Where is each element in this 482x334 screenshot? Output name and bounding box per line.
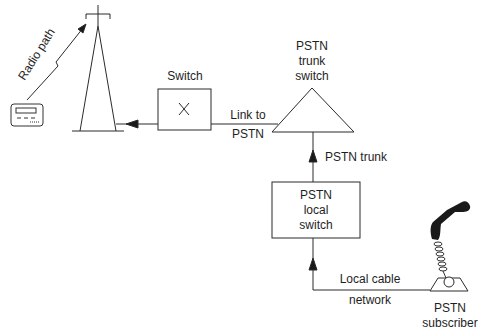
local-switch-label-2: local bbox=[272, 203, 360, 218]
trunk-switch-label-3: switch bbox=[282, 69, 342, 84]
trunk-switch-label-2: trunk bbox=[282, 54, 342, 69]
telephone-icon bbox=[430, 201, 470, 291]
local-switch-label-3: switch bbox=[272, 218, 360, 233]
trunk-switch-label-1: PSTN bbox=[282, 39, 342, 54]
switch-label: Switch bbox=[158, 69, 212, 84]
switch-to-tower-link bbox=[116, 120, 158, 128]
pstn-trunk-label: PSTN trunk bbox=[325, 150, 387, 165]
local-switch-label-1: PSTN bbox=[272, 188, 360, 203]
local-cable-label-1: Local cable bbox=[330, 272, 410, 287]
subscriber-label-2: subscriber bbox=[420, 316, 480, 331]
local-cable-label-2: network bbox=[330, 293, 410, 308]
subscriber-label-1: PSTN bbox=[420, 301, 480, 316]
switch-box bbox=[158, 89, 211, 130]
link-to-pstn-label-1: Link to bbox=[222, 108, 274, 123]
pager-icon bbox=[11, 104, 43, 126]
trunk-switch-triangle bbox=[272, 88, 354, 132]
radio-tower-icon bbox=[72, 5, 124, 131]
pstn-trunk-link bbox=[309, 132, 317, 182]
link-to-pstn-label-2: PSTN bbox=[222, 127, 274, 142]
